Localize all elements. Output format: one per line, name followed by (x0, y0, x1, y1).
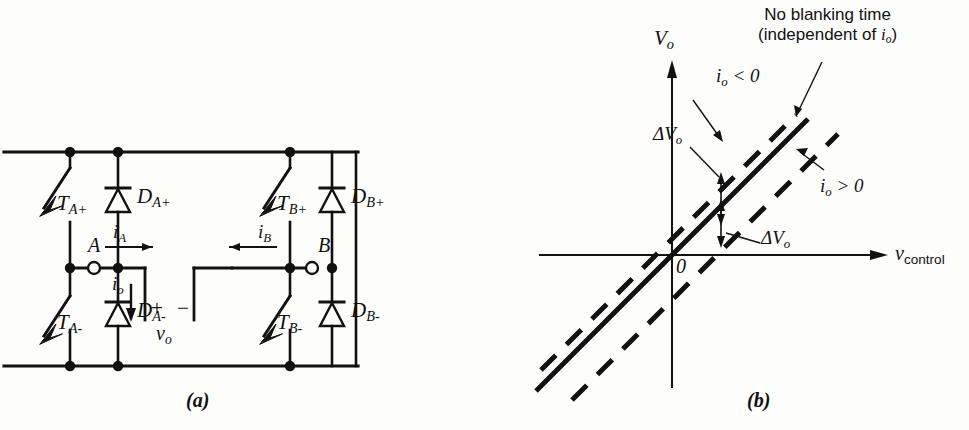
label-delta-vo-upper: ΔVo (653, 124, 682, 147)
transfer-characteristic-plot (0, 0, 969, 430)
label-io-greater-than-zero: io > 0 (820, 176, 864, 199)
leader-no-blanking (798, 62, 822, 112)
x-axis-arrowhead (870, 250, 888, 260)
caption-panel-b: (b) (747, 390, 770, 410)
figure-panel-b (0, 0, 969, 430)
annotation-line-1: No blanking time (758, 6, 897, 23)
annotation-line-2: (independent of io) (758, 26, 897, 46)
annotation-no-blanking-time: No blanking time (independent of io) (758, 6, 897, 46)
curve-io-positive-dashed (572, 134, 838, 400)
axis-label-vo: Vo (654, 28, 674, 51)
axis-label-vcontrol: vcontrol (895, 243, 945, 266)
leader-delta-upper (690, 147, 719, 177)
y-axis-arrowhead (667, 60, 677, 78)
axis-origin-label: 0 (676, 256, 686, 276)
label-io-less-than-zero: io < 0 (716, 66, 760, 89)
leader-io-negative (693, 100, 720, 138)
label-delta-vo-lower: ΔVo (761, 228, 790, 251)
